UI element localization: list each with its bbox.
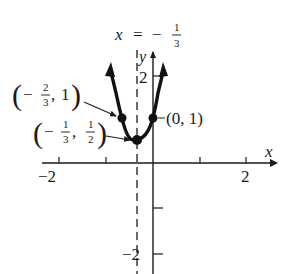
svg-text:): ) — [97, 116, 107, 150]
svg-text:3: 3 — [174, 37, 180, 49]
svg-text:x: x — [114, 25, 123, 44]
x-tick-label-2: 2 — [241, 167, 250, 186]
svg-text:3: 3 — [43, 96, 49, 108]
svg-text:−: − — [44, 122, 54, 141]
x-axis — [42, 157, 276, 163]
x-tick-label-neg2: −2 — [38, 167, 56, 186]
svg-text:1: 1 — [61, 85, 70, 104]
x-axis-label: x — [264, 142, 273, 161]
svg-text:(: ( — [12, 78, 22, 112]
svg-text:=: = — [133, 25, 143, 44]
svg-text:,: , — [72, 122, 76, 141]
svg-text:3: 3 — [63, 133, 69, 145]
svg-text:2: 2 — [88, 133, 94, 145]
point-vertex — [132, 135, 142, 145]
svg-text:(: ( — [33, 116, 43, 150]
label-left-point: ( − 2 3 , 1 ) — [12, 78, 81, 112]
svg-text:−: − — [152, 25, 162, 44]
svg-text:−: − — [23, 85, 33, 104]
y-axis-label: y — [137, 48, 147, 66]
label-y-intercept: (0, 1) — [166, 109, 203, 128]
y-tick-label-2: 2 — [139, 68, 148, 87]
svg-text:,: , — [51, 85, 55, 104]
svg-text:1: 1 — [174, 21, 180, 33]
svg-text:1: 1 — [63, 118, 69, 130]
label-vertex: ( − 1 3 , 1 2 ) — [33, 116, 107, 150]
svg-text:1: 1 — [88, 118, 94, 130]
point-y-intercept — [149, 114, 158, 123]
leader-arrow-left-point — [84, 102, 116, 116]
leader-arrow-vertex — [106, 136, 130, 140]
parabola-graph: x −2 2 y 2 −2 x = − 1 3 ( − 2 3 — [0, 0, 287, 274]
axis-of-symmetry-label: x = − 1 3 — [114, 21, 181, 49]
svg-text:): ) — [71, 78, 81, 112]
point-left — [118, 114, 127, 123]
svg-text:2: 2 — [43, 81, 49, 93]
